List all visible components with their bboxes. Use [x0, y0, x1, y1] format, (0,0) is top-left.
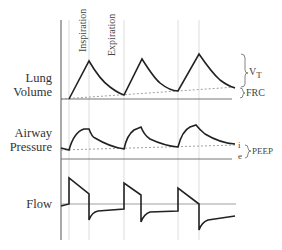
frc-bracket-icon: [240, 88, 245, 98]
vt-subscript: T: [256, 70, 262, 80]
bracket-annotations: [0, 0, 282, 250]
vt-label: VT: [249, 66, 262, 80]
i-label: i: [238, 140, 241, 150]
peep-label: PEEP: [252, 146, 273, 156]
e-label: e: [238, 151, 242, 161]
vt-bracket-icon: [241, 54, 248, 87]
peep-bracket-icon: [245, 145, 251, 158]
frc-label: FRC: [246, 87, 265, 98]
